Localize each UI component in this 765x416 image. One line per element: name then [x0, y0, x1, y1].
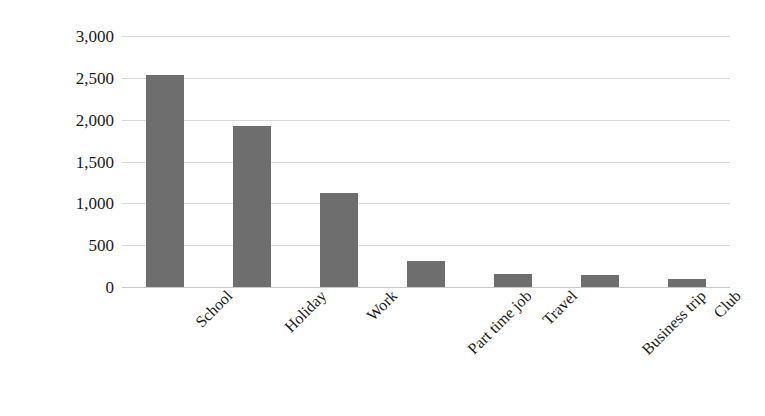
y-axis-tick-label: 1,500	[42, 154, 114, 171]
x-axis-category-label: Work	[363, 287, 401, 325]
y-axis-tick-label: 0	[42, 279, 114, 296]
x-axis-category-label: Travel	[539, 287, 581, 329]
bar	[581, 275, 619, 287]
plot-area	[122, 36, 730, 287]
bar	[668, 279, 706, 287]
bars-group	[122, 36, 730, 287]
y-axis-tick-label: 3,000	[42, 28, 114, 45]
x-axis-category-label: Part time job	[464, 287, 535, 358]
x-axis-category-label: Club	[710, 287, 745, 322]
bar	[146, 75, 184, 287]
bar-chart: Number of selections 05001,0001,5002,000…	[0, 0, 765, 416]
x-axis-category-labels: SchoolHolidayWorkPart time jobTravelBusi…	[122, 287, 765, 416]
x-axis-category-label: Holiday	[281, 287, 330, 336]
x-axis-category-label: School	[192, 287, 236, 331]
bar	[233, 126, 271, 287]
y-axis-tick-label: 2,500	[42, 70, 114, 87]
y-axis-tick-label: 2,000	[42, 112, 114, 129]
y-axis-tick-label: 1,000	[42, 195, 114, 212]
bar	[320, 193, 358, 287]
bar	[407, 261, 445, 287]
bar	[494, 274, 532, 287]
y-axis-tick-label: 500	[42, 237, 114, 254]
x-axis-category-label: Business trip	[638, 287, 710, 359]
y-axis-tick-labels: 05001,0001,5002,0002,5003,000	[42, 0, 114, 416]
